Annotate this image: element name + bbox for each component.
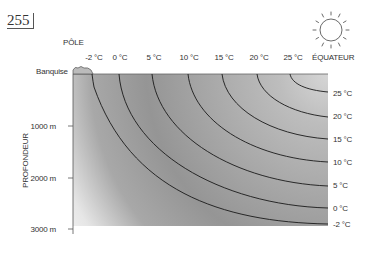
ice-shelf-icon xyxy=(73,67,93,75)
sun-icon xyxy=(313,12,349,48)
ocean-section xyxy=(73,74,328,226)
isotherm-diagram xyxy=(0,0,373,258)
